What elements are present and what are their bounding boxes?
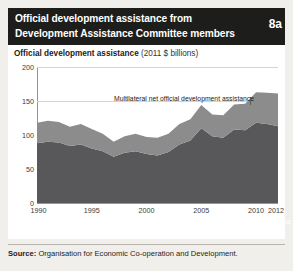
source-divider xyxy=(8,244,285,245)
figure-panel: Official development assistance from Dev… xyxy=(0,0,293,271)
source-note: Source: Organisation for Economic Co-ope… xyxy=(8,249,285,258)
bilateral-series-label: Bilateral net official development assis… xyxy=(159,218,291,225)
y-axis-tick-label: 200 xyxy=(22,63,34,72)
multilateral-series-label: Multilateral net official development as… xyxy=(114,95,254,102)
figure-number-badge: 8a xyxy=(269,17,282,31)
figure-title-line2: Development Assistance Committee members xyxy=(15,26,243,41)
chart-subtitle: Official development assistance (2011 $ … xyxy=(14,49,198,58)
x-axis-tick-label: 2010 xyxy=(248,206,264,215)
x-axis-tick-label: 1995 xyxy=(84,206,100,215)
chart-subtitle-units: (2011 $ billions) xyxy=(141,49,198,58)
chart-subtitle-bold: Official development assistance xyxy=(14,49,139,58)
x-axis: 199019952000200520102012 xyxy=(37,67,278,203)
x-axis-tick-label: 1990 xyxy=(31,206,47,215)
figure-title: Official development assistance from Dev… xyxy=(15,11,243,41)
figure-header: Official development assistance from Dev… xyxy=(8,8,285,45)
plot-area: 050100150200 199019952000200520102012 Mu… xyxy=(37,67,278,203)
source-text: Organisation for Economic Co-operation a… xyxy=(36,249,237,258)
x-axis-tick-label: 2005 xyxy=(193,206,209,215)
source-label: Source: xyxy=(8,249,36,258)
x-axis-line xyxy=(37,203,278,204)
figure-title-line1: Official development assistance from xyxy=(15,13,192,24)
x-axis-tick-label: 2000 xyxy=(139,206,155,215)
y-axis-tick-label: 50 xyxy=(26,165,34,174)
y-axis-tick-label: 150 xyxy=(22,97,34,106)
chart-card: Official development assistance (2011 $ … xyxy=(8,45,285,239)
y-axis-tick-label: 100 xyxy=(22,131,34,140)
x-axis-tick-label: 2012 xyxy=(268,206,284,215)
multilateral-label-leader-line xyxy=(250,97,251,105)
